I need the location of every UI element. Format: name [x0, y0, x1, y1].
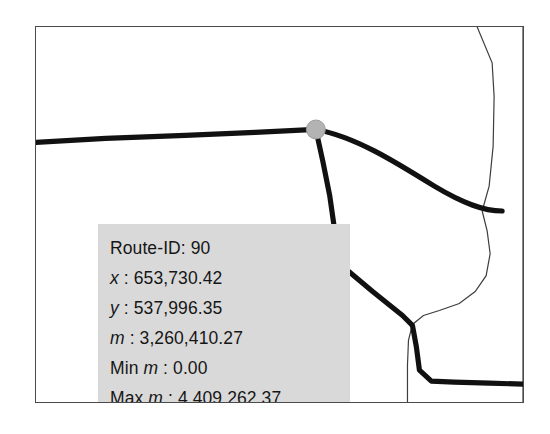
max-prefix-label: Max [110, 388, 148, 403]
info-row-m: m : 3,260,410.27 [110, 323, 350, 353]
info-row-x: x : 653,730.42 [110, 263, 350, 293]
max-m-value: 4,409,262.37 [178, 388, 281, 403]
route-id-separator: : [181, 238, 191, 258]
info-row-max-m: Max m : 4,409,262.37 [110, 383, 350, 403]
max-m-symbol-label: m [148, 388, 163, 403]
route-id-label: Route-ID [110, 238, 181, 258]
map-viewer[interactable]: Route-ID: 90 x : 653,730.42 y : 537,996.… [0, 0, 550, 434]
route-id-value: 90 [191, 238, 211, 258]
min-m-value: 0.00 [173, 358, 207, 378]
y-value: 537,996.35 [134, 298, 223, 318]
m-separator: : [125, 328, 140, 348]
min-separator: : [158, 358, 173, 378]
route-vertex-marker[interactable] [306, 120, 325, 139]
boundary-lines-group [407, 27, 523, 402]
min-m-symbol-label: m [143, 358, 158, 378]
map-extent-frame[interactable]: Route-ID: 90 x : 653,730.42 y : 537,996.… [35, 26, 524, 403]
info-row-min-m: Min m : 0.00 [110, 353, 350, 383]
y-symbol-label: y [110, 298, 119, 318]
m-value: 3,260,410.27 [140, 328, 243, 348]
route-line-west-arterial [36, 129, 316, 142]
info-row-route-id: Route-ID: 90 [110, 233, 350, 263]
x-value: 653,730.42 [134, 268, 223, 288]
boundary-line-north-diagonal [477, 27, 494, 211]
min-prefix-label: Min [110, 358, 143, 378]
route-line-east-curve [316, 129, 502, 211]
y-separator: : [119, 298, 134, 318]
m-symbol-label: m [110, 328, 125, 348]
max-separator: : [163, 388, 178, 403]
x-separator: : [119, 268, 134, 288]
route-attribute-info-panel: Route-ID: 90 x : 653,730.42 y : 537,996.… [98, 224, 350, 403]
x-symbol-label: x [110, 268, 119, 288]
info-row-y: y : 537,996.35 [110, 293, 350, 323]
